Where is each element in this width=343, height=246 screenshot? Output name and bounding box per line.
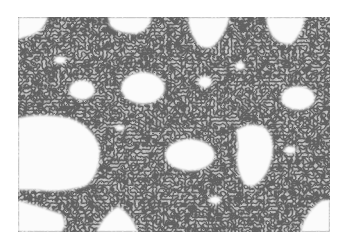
histology-micrograph: Histology micrograph (grayscale)	[0, 0, 343, 246]
tissue-image	[0, 0, 343, 246]
